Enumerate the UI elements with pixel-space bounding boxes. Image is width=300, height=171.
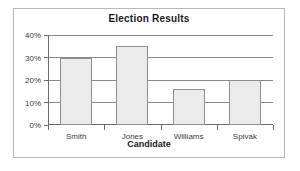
x-axis-tick <box>273 125 274 130</box>
x-axis-title: Candidate <box>14 139 284 149</box>
y-axis-tick <box>44 57 49 58</box>
y-axis-label: 20% <box>25 76 41 85</box>
gridline <box>48 35 273 36</box>
x-axis-tick <box>217 125 218 130</box>
y-axis-tick <box>44 102 49 103</box>
bar-smith[interactable] <box>60 58 92 126</box>
bar-williams[interactable] <box>173 89 205 125</box>
x-axis-tick <box>161 125 162 130</box>
chart-frame: Election Results 0%10%20%30%40%SmithJone… <box>13 8 285 158</box>
chart-title: Election Results <box>14 13 284 24</box>
x-axis-tick <box>104 125 105 130</box>
plot-area: 0%10%20%30%40%SmithJonesWilliamsSpivak <box>48 35 273 125</box>
y-axis-label: 0% <box>29 121 41 130</box>
y-axis-label: 30% <box>25 53 41 62</box>
bar-spivak[interactable] <box>229 80 261 125</box>
y-axis-label: 40% <box>25 31 41 40</box>
y-axis-label: 10% <box>25 98 41 107</box>
bar-jones[interactable] <box>116 46 148 125</box>
x-axis-tick <box>48 125 49 130</box>
y-axis-tick <box>44 80 49 81</box>
y-axis-tick <box>44 35 49 36</box>
